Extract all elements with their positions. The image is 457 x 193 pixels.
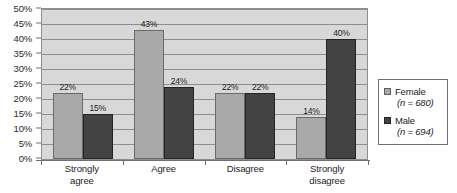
y-tick-label: 20% — [14, 93, 32, 104]
legend-label-male: Male — [395, 115, 415, 126]
y-tick-label: 25% — [14, 78, 32, 89]
bar-group: 22%15% — [42, 9, 123, 159]
y-tick-label: 15% — [14, 108, 32, 119]
x-category-label: Agree — [123, 163, 205, 187]
bar-value-label: 40% — [333, 28, 349, 38]
bar-male[interactable]: 24% — [164, 87, 194, 159]
y-tick-mark — [36, 53, 41, 54]
y-tick-label: 50% — [14, 3, 32, 14]
x-category-label: Strongly agree — [41, 163, 123, 187]
x-category-label: Strongly disagree — [286, 163, 368, 187]
bar-chart: 50% 45% 40% 35% 30% 25% 20% 15% 10% 5% 0… — [0, 0, 457, 193]
y-tick-mark — [36, 23, 41, 24]
y-tick-mark — [36, 113, 41, 114]
bar-female[interactable]: 22% — [53, 93, 83, 159]
bar-male[interactable]: 22% — [245, 93, 275, 159]
bar-group: 22%22% — [205, 9, 286, 159]
legend-label-female: Female — [395, 86, 425, 97]
plot-area: 22%15%43%24%22%22%14%40% — [41, 8, 368, 160]
bar-group: 14%40% — [286, 9, 367, 159]
legend-row: Female — [384, 86, 442, 97]
legend-swatch-icon-female — [384, 88, 391, 95]
bar-value-label: 43% — [141, 19, 157, 29]
bar-value-label: 22% — [222, 82, 238, 92]
y-tick-mark — [36, 158, 41, 159]
x-axis: Strongly agree Agree Disagree Strongly d… — [41, 163, 368, 187]
y-tick-label: 45% — [14, 18, 32, 29]
legend: Female (n = 680) Male (n = 694) — [378, 79, 448, 145]
bar-value-label: 24% — [171, 76, 187, 86]
x-category-line1: Strongly — [286, 163, 368, 175]
bar-value-label: 15% — [89, 103, 105, 113]
bar-group: 43%24% — [123, 9, 204, 159]
x-tick-mark — [123, 160, 124, 165]
bar-value-label: 22% — [59, 82, 75, 92]
x-category-line1: Strongly — [41, 163, 123, 175]
legend-sample-size-female: (n = 680) — [397, 97, 442, 108]
bar-female[interactable]: 43% — [134, 30, 164, 159]
y-tick-mark — [36, 83, 41, 84]
y-axis: 50% 45% 40% 35% 30% 25% 20% 15% 10% 5% 0… — [0, 0, 36, 162]
bar-female[interactable]: 22% — [215, 93, 245, 159]
bar-male[interactable]: 15% — [83, 114, 113, 159]
x-category-line1: Disagree — [205, 163, 287, 175]
y-tick-mark — [36, 38, 41, 39]
x-tick-mark — [41, 160, 42, 165]
legend-entry-female: Female (n = 680) — [384, 86, 442, 108]
x-tick-mark — [205, 160, 206, 165]
bars-layer: 22%15%43%24%22%22%14%40% — [42, 9, 367, 159]
bar-male[interactable]: 40% — [326, 39, 356, 159]
x-category-label: Disagree — [205, 163, 287, 187]
bar-female[interactable]: 14% — [296, 117, 326, 159]
y-tick-mark — [36, 8, 41, 9]
legend-swatch-icon-male — [384, 117, 391, 124]
y-tick-label: 10% — [14, 123, 32, 134]
x-tick-mark — [286, 160, 287, 165]
y-tick-mark — [36, 98, 41, 99]
x-axis-line — [36, 160, 370, 161]
legend-row: Male — [384, 115, 442, 126]
y-tick-mark — [36, 143, 41, 144]
legend-entry-male: Male (n = 694) — [384, 115, 442, 137]
x-category-line2: disagree — [286, 175, 368, 187]
bar-value-label: 22% — [252, 82, 268, 92]
x-category-line1: Agree — [123, 163, 205, 175]
x-tick-mark — [368, 160, 369, 165]
legend-sample-size-male: (n = 694) — [397, 126, 442, 137]
y-tick-mark — [36, 128, 41, 129]
y-tick-mark — [36, 68, 41, 69]
y-tick-label: 0% — [19, 153, 32, 164]
bar-value-label: 14% — [303, 106, 319, 116]
y-tick-label: 5% — [19, 138, 32, 149]
y-tick-label: 35% — [14, 48, 32, 59]
y-tick-label: 40% — [14, 33, 32, 44]
y-tick-label: 30% — [14, 63, 32, 74]
x-category-line2: agree — [41, 175, 123, 187]
